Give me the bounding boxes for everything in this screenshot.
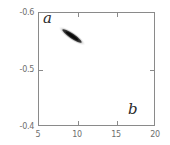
density-blob-svg [39, 13, 156, 127]
plot-area: a b [38, 12, 155, 126]
x-tick-label-5: 5 [26, 130, 50, 139]
density-blob-layer [39, 13, 156, 127]
y-tick-label-mid: -0.5 [0, 65, 34, 74]
axis-letter-b: b [128, 102, 138, 117]
density-blob-ellipse [56, 23, 88, 49]
x-tick-label-15: 15 [104, 130, 128, 139]
x-tick-label-20: 20 [143, 130, 167, 139]
chart-figure: -0.6 -0.5 -0.4 5 10 15 20 [0, 0, 170, 145]
y-tick-label-top: -0.6 [0, 8, 34, 17]
x-tick-label-10: 10 [65, 130, 89, 139]
axis-letter-a: a [43, 11, 52, 26]
